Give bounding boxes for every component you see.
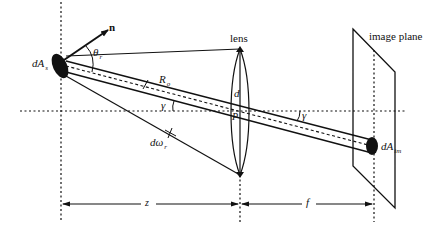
image-plane-label: image plane — [369, 31, 422, 42]
lens-label: lens — [230, 33, 248, 44]
R-o-label: Ro — [159, 74, 170, 85]
d-label: d — [234, 88, 240, 99]
reference-lines — [20, 2, 405, 222]
theta-r-label: θr — [93, 47, 102, 58]
P-label: P — [232, 112, 238, 122]
dA-im-label: dAim — [381, 141, 401, 152]
z-label: z — [145, 198, 149, 208]
optics-diagram: lens image plane n θr dAs Ro γ γ d P dωr… — [0, 0, 437, 238]
d-omega-r-label: dωr — [150, 137, 167, 148]
normal-label: n — [109, 22, 115, 33]
gamma-left-label: γ — [161, 100, 165, 111]
dA-s-label: dAs — [32, 58, 48, 69]
lens-bottom-tip — [236, 172, 244, 178]
gamma-left-arc — [173, 101, 174, 111]
gamma-right-arc — [297, 111, 300, 121]
gamma-right-label: γ — [302, 110, 306, 121]
chief-ray-bundle — [66, 61, 372, 153]
f-label: f — [306, 197, 309, 208]
image-patch — [366, 137, 378, 155]
